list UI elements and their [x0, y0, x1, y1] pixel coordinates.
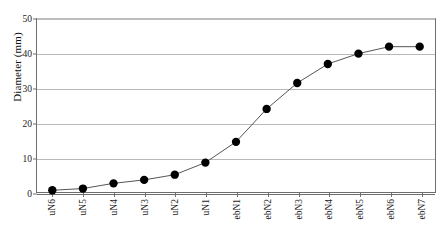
series-diameter	[37, 19, 435, 192]
x-tickmark-uN2	[175, 192, 176, 197]
x-tickmark-ebN5	[360, 192, 361, 197]
x-tickmark-uN3	[145, 192, 146, 197]
data-point-uN6	[48, 186, 56, 194]
data-point-uN4	[109, 179, 117, 187]
x-tickmark-ebN4	[329, 192, 330, 197]
x-tickmark-ebN2	[268, 192, 269, 197]
data-point-ebN7	[416, 43, 424, 51]
data-point-uN2	[171, 171, 179, 179]
y-tick-label-10: 10	[23, 154, 33, 164]
y-tickmark-0	[33, 194, 37, 195]
x-tickmark-ebN3	[299, 192, 300, 197]
data-point-ebN2	[262, 105, 270, 113]
figure-caption	[0, 231, 446, 238]
x-tickmark-uN1	[206, 192, 207, 197]
data-point-uN5	[79, 184, 87, 192]
x-tickmark-ebN6	[391, 192, 392, 197]
data-series-layer	[37, 19, 435, 192]
chart-figure: Diameter (mm) 01020304050 uN6uN5uN4uN3uN…	[0, 0, 446, 238]
x-tickmark-ebN1	[237, 192, 238, 197]
data-point-ebN3	[293, 79, 301, 87]
y-tick-label-20: 20	[23, 119, 33, 129]
data-point-uN3	[140, 176, 148, 184]
data-line	[52, 47, 419, 191]
y-tick-label-30: 30	[23, 84, 33, 94]
plot-area: 01020304050 uN6uN5uN4uN3uN2uN1ebN1ebN2eb…	[36, 18, 436, 193]
x-tickmark-ebN7	[422, 192, 423, 197]
gridline-0	[37, 194, 435, 195]
data-point-ebN6	[385, 43, 393, 51]
y-tick-label-50: 50	[23, 14, 33, 24]
data-point-ebN4	[324, 60, 332, 68]
x-tickmark-uN5	[83, 192, 84, 197]
data-point-ebN5	[354, 49, 362, 57]
data-markers	[48, 43, 424, 195]
y-tick-label-0: 0	[27, 189, 32, 199]
data-point-uN1	[201, 158, 209, 166]
data-point-ebN1	[232, 138, 240, 146]
y-axis-title: Diameter (mm)	[11, 7, 25, 127]
x-tickmark-uN4	[114, 192, 115, 197]
y-tick-label-40: 40	[23, 49, 33, 59]
